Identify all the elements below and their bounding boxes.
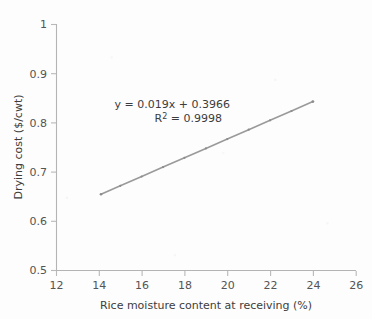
chart-background (0, 0, 372, 319)
x-tick-label: 20 (221, 279, 235, 292)
y-axis-title: Drying cost ($/cwt) (12, 95, 25, 200)
x-axis-title: Rice moisture content at receiving (%) (100, 299, 312, 312)
y-tick-label: 0.8 (30, 117, 48, 130)
x-tick-label: 12 (50, 279, 64, 292)
r-squared-value: = 0.9998 (167, 112, 222, 125)
chart-figure: 1 0.9 0.8 0.7 0.6 0.5 12 14 16 18 20 22 (0, 0, 372, 319)
y-tick-label: 0.6 (30, 215, 48, 228)
x-tick-label: 18 (178, 279, 192, 292)
y-tick-label: 0.7 (30, 166, 48, 179)
y-tick-label: 0.9 (30, 68, 48, 81)
x-tick-label: 14 (92, 279, 106, 292)
y-tick-label: 1 (40, 18, 47, 31)
scatter-line-chart: 1 0.9 0.8 0.7 0.6 0.5 12 14 16 18 20 22 (0, 0, 372, 319)
trendline-equation-label: y = 0.019x + 0.3966 (115, 98, 230, 111)
x-tick-label: 22 (264, 279, 278, 292)
x-tick-label: 24 (306, 279, 320, 292)
x-tick-label: 26 (349, 279, 363, 292)
x-tick-label: 16 (135, 279, 149, 292)
y-tick-label: 0.5 (30, 264, 48, 277)
